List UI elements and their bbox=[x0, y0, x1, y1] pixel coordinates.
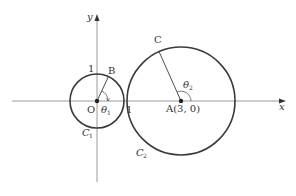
point-c-label: C bbox=[154, 34, 162, 45]
y-axis-label: y bbox=[86, 11, 93, 22]
x-axis-label: x bbox=[279, 101, 285, 112]
radius-ac bbox=[159, 52, 181, 102]
y-axis-arrow-icon bbox=[95, 14, 100, 21]
c1-subscript: 1 bbox=[89, 132, 93, 139]
x-tick-one: 1 bbox=[126, 104, 132, 115]
theta2-subscript: 2 bbox=[189, 84, 193, 91]
origin-label: O bbox=[87, 104, 95, 115]
theta1-subscript: 1 bbox=[107, 109, 111, 116]
diagram-canvas: y x 1 1 O B C A(3, 0) θ 1 θ 2 C 1 C 2 bbox=[0, 0, 296, 196]
point-a-label: A(3, 0) bbox=[165, 103, 200, 114]
origin-point bbox=[95, 99, 99, 103]
c2-subscript: 2 bbox=[143, 152, 147, 159]
point-b-label: B bbox=[108, 65, 115, 76]
radius-ob bbox=[97, 77, 109, 102]
y-tick-one: 1 bbox=[88, 63, 94, 74]
